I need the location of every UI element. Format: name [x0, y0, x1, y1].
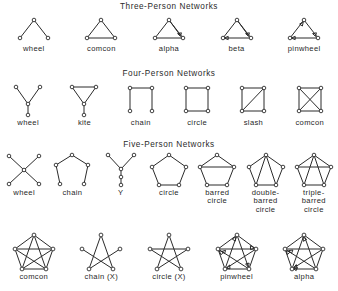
network-label: barred circle [205, 189, 229, 206]
graph-five-chain-x [79, 232, 123, 272]
network-label: circle [187, 119, 207, 127]
network-label: comcon [19, 273, 48, 281]
network-label: Y [118, 189, 123, 197]
row-four-person: wheel kite [0, 84, 338, 127]
network-cell-four-slash[interactable]: slash [227, 84, 279, 127]
network-cell-five-chain[interactable]: chain [50, 152, 95, 197]
network-label: wheel [23, 45, 45, 53]
graph-five-wheel [4, 152, 44, 188]
graph-four-circle [180, 84, 214, 118]
graph-five-alpha [282, 232, 326, 272]
graph-five-pinwheel [215, 232, 259, 272]
network-label: wheel [13, 189, 35, 197]
graph-three-comcon [79, 16, 123, 44]
network-label: slash [244, 119, 263, 127]
network-cell-five-wheel[interactable]: wheel [2, 152, 47, 197]
network-cell-four-wheel[interactable]: wheel [2, 84, 54, 127]
network-label: pinwheel [288, 45, 321, 53]
network-label: pinwheel [220, 273, 253, 281]
graph-three-beta [215, 16, 259, 44]
network-label: kite [78, 119, 91, 127]
network-cell-four-comcon[interactable]: comcon [284, 84, 336, 127]
network-cell-four-chain[interactable]: chain [115, 84, 167, 127]
network-cell-four-circle[interactable]: circle [171, 84, 223, 127]
graph-three-alpha [147, 16, 191, 44]
network-cell-five-circle[interactable]: circle [146, 152, 191, 197]
graph-four-slash [236, 84, 270, 118]
network-cell-five-double-barred-circle[interactable]: double- barred circle [243, 152, 288, 214]
network-label: chain [62, 189, 82, 197]
network-cell-three-comcon[interactable]: comcon [70, 16, 132, 53]
section-title-three-person: Three-Person Networks [0, 2, 338, 11]
graph-four-wheel [11, 84, 45, 118]
graph-five-comcon [12, 232, 56, 272]
section-title-four-person: Four-Person Networks [0, 69, 338, 78]
row-five-person-a: wheel chain [0, 152, 338, 214]
network-cell-three-wheel[interactable]: wheel [3, 16, 65, 53]
graph-five-barred-circle [197, 152, 237, 188]
network-cell-three-beta[interactable]: beta [206, 16, 268, 53]
graph-four-comcon [293, 84, 327, 118]
network-label: triple- barred circle [302, 189, 326, 214]
graph-five-y [101, 152, 141, 188]
network-label: alpha [159, 45, 179, 53]
row-three-person: wheel comcon [0, 16, 338, 53]
network-label: chain [131, 119, 151, 127]
network-cell-five-barred-circle[interactable]: barred circle [195, 152, 240, 206]
graph-five-circle [149, 152, 189, 188]
graph-three-pinwheel [282, 16, 326, 44]
graph-three-wheel [12, 16, 56, 44]
network-cell-four-kite[interactable]: kite [58, 84, 110, 127]
network-cell-five-y[interactable]: Y [98, 152, 143, 197]
graph-five-chain [52, 152, 92, 188]
network-label: beta [228, 45, 244, 53]
graph-five-double-barred-circle [246, 152, 286, 188]
network-cell-three-pinwheel[interactable]: pinwheel [273, 16, 335, 53]
network-cell-five-chain-x[interactable]: chain (X) [70, 232, 132, 281]
network-label: circle [159, 189, 179, 197]
network-diagram-figure: Three-Person Networks wheel co [0, 0, 338, 291]
row-five-person-b: comcon chain (X) ci [0, 232, 338, 281]
network-label: alpha [294, 273, 314, 281]
graph-four-chain [124, 84, 158, 118]
network-label: chain (X) [85, 273, 119, 281]
network-label: comcon [295, 119, 324, 127]
network-cell-five-pinwheel[interactable]: pinwheel [206, 232, 268, 281]
graph-five-circle-x [147, 232, 191, 272]
network-label: circle (X) [152, 273, 185, 281]
graph-four-kite [67, 84, 101, 118]
network-label: double- barred circle [252, 189, 280, 214]
section-title-five-person: Five-Person Networks [0, 140, 338, 149]
network-cell-three-alpha[interactable]: alpha [138, 16, 200, 53]
network-label: wheel [17, 119, 39, 127]
network-cell-five-circle-x[interactable]: circle (X) [138, 232, 200, 281]
network-cell-five-triple-barred-circle[interactable]: triple- barred circle [291, 152, 336, 214]
network-cell-five-alpha[interactable]: alpha [273, 232, 335, 281]
graph-five-triple-barred-circle [294, 152, 334, 188]
network-cell-five-comcon[interactable]: comcon [3, 232, 65, 281]
network-label: comcon [87, 45, 116, 53]
